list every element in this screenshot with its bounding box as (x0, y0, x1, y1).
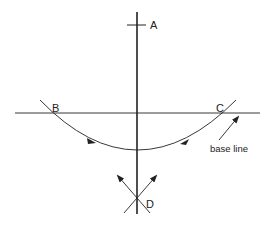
base-line-pointer-arrow (219, 117, 238, 140)
label-base-line: base line (210, 143, 248, 154)
label-b: B (52, 102, 59, 114)
label-d: D (146, 198, 154, 210)
label-a: A (150, 19, 158, 31)
label-c: C (216, 102, 224, 114)
arc-bc (40, 100, 236, 150)
perpendicular-construction-diagram: A B C D base line (0, 0, 274, 227)
